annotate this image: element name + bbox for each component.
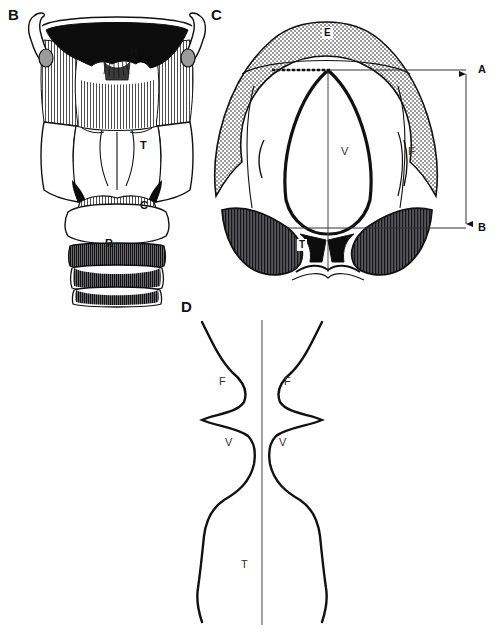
label-vocal-cord-left: V [225,436,232,448]
horn-joint-left [39,49,53,67]
label-hyoid-bone: H [130,45,138,57]
label-epiglottis: E [322,27,333,39]
label-false-cord-right: F [284,375,291,387]
label-cricoid-cartilage: C [140,199,148,211]
dimension-label-b: B [478,221,486,233]
horn-joint-right [181,49,195,67]
label-false-cord: F [408,145,415,157]
dimension-label-a: A [478,63,486,75]
label-trachea: T [241,558,248,570]
panel-letter-c: C [211,6,222,23]
label-vestibule: V [341,145,348,157]
label-vocal-cord-right: V [279,436,286,448]
cricoid-cartilage [65,204,169,244]
panel-letter-b: B [8,6,19,23]
laryngeal-anatomy-figure [0,0,499,638]
label-tracheal-rings: R [105,237,113,249]
label-false-cord-left: F [219,375,226,387]
label-thyroid-cartilage: T [140,139,147,151]
thyrohyoid-membrane-center [78,80,156,129]
label-arytenoid-mass: T [297,239,307,251]
panel-letter-d: D [181,298,192,315]
